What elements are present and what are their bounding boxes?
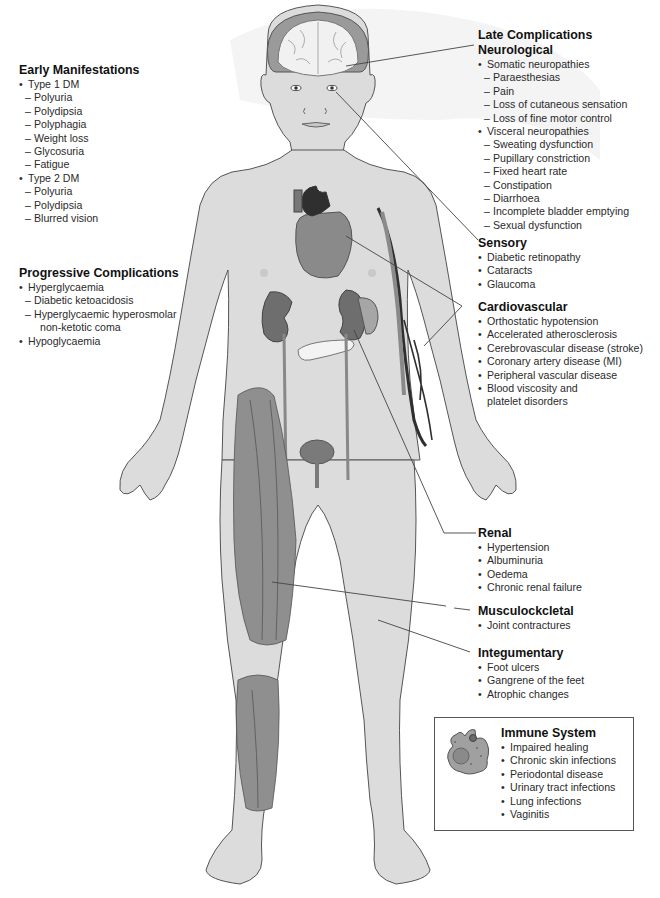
list-item: Diarrhoea: [478, 192, 660, 205]
list-item: Glycosuria: [19, 145, 219, 158]
renal-title: Renal: [478, 526, 660, 541]
list-item: Albuminuria: [478, 554, 660, 567]
musculoskeletal-title: Musculockcletal: [478, 604, 660, 619]
list-item: Hyperglycaemia: [19, 281, 229, 294]
list-item: Blood viscosity and: [478, 382, 660, 395]
immune-system-box: Immune System Impaired healing Chronic s…: [434, 717, 634, 831]
list-item: Chronic skin infections: [501, 754, 631, 767]
late-complications-title: Late Complications: [478, 28, 660, 43]
list-item: Sweating dysfunction: [478, 138, 660, 151]
early-manifestations-panel: Early Manifestations Type 1 DM Polyuria …: [19, 63, 219, 225]
list-item: Orthostatic hypotension: [478, 315, 660, 328]
list-item: Loss of cutaneous sensation: [478, 98, 660, 111]
early-manifestations-title: Early Manifestations: [19, 63, 219, 78]
list-item: Hypoglycaemia: [19, 335, 229, 348]
sensory-panel: Sensory Diabetic retinopathy Cataracts G…: [478, 236, 660, 291]
list-item: Atrophic changes: [478, 688, 660, 701]
list-item: Polydipsia: [19, 105, 219, 118]
list-item: Urinary tract infections: [501, 781, 631, 794]
list-item: Diabetic ketoacidosis: [19, 294, 229, 307]
list-item: Polyphagia: [19, 118, 219, 131]
list-item: non-ketotic coma: [19, 321, 229, 334]
neurological-title: Neurological: [478, 43, 660, 58]
list-item: Polyuria: [19, 185, 219, 198]
list-item: Somatic neuropathies: [478, 58, 660, 71]
list-item: Pain: [478, 85, 660, 98]
list-item: Foot ulcers: [478, 661, 660, 674]
list-item: Coronary artery disease (MI): [478, 355, 660, 368]
progressive-complications-title: Progressive Complications: [19, 266, 229, 281]
list-item: Type 2 DM: [19, 172, 219, 185]
list-item: Loss of fine motor control: [478, 112, 660, 125]
immune-system-panel: Immune System Impaired healing Chronic s…: [501, 726, 631, 821]
list-item: Pupillary constriction: [478, 152, 660, 165]
list-item: Periodontal disease: [501, 768, 631, 781]
list-item: Polyuria: [19, 91, 219, 104]
integumentary-title: Integumentary: [478, 646, 660, 661]
neurological-panel: Late Complications Neurological Somatic …: [478, 28, 660, 232]
list-item: Peripheral vascular disease: [478, 369, 660, 382]
list-item: platelet disorders: [478, 395, 660, 408]
list-item: Paraesthesias: [478, 71, 660, 84]
list-item: Blurred vision: [19, 212, 219, 225]
list-item: Vaginitis: [501, 808, 631, 821]
list-item: Hypertension: [478, 541, 660, 554]
list-item: Cataracts: [478, 264, 660, 277]
list-item: Type 1 DM: [19, 78, 219, 91]
list-item: Fixed heart rate: [478, 165, 660, 178]
list-item: Joint contractures: [478, 619, 660, 632]
progressive-complications-panel: Progressive Complications Hyperglycaemia…: [19, 266, 229, 348]
list-item: Visceral neuropathies: [478, 125, 660, 138]
list-item: Diabetic retinopathy: [478, 251, 660, 264]
list-item: Sexual dysfunction: [478, 219, 660, 232]
list-item: Oedema: [478, 568, 660, 581]
list-item: Gangrene of the feet: [478, 674, 660, 687]
list-item: Hyperglycaemic hyperosmolar: [19, 308, 229, 321]
list-item: Accelerated atherosclerosis: [478, 328, 660, 341]
list-item: Impaired healing: [501, 741, 631, 754]
cardiovascular-panel: Cardiovascular Orthostatic hypotension A…: [478, 300, 660, 409]
list-item: Fatigue: [19, 158, 219, 171]
list-item: Chronic renal failure: [478, 581, 660, 594]
immune-cell-icon: [443, 726, 499, 778]
integumentary-panel: Integumentary Foot ulcers Gangrene of th…: [478, 646, 660, 701]
list-item: Incomplete bladder emptying: [478, 205, 660, 218]
list-item: Constipation: [478, 179, 660, 192]
list-item: Weight loss: [19, 132, 219, 145]
list-item: Cerebrovascular disease (stroke): [478, 342, 660, 355]
list-item: Polydipsia: [19, 199, 219, 212]
sensory-title: Sensory: [478, 236, 660, 251]
renal-panel: Renal Hypertension Albuminuria Oedema Ch…: [478, 526, 660, 595]
list-item: Lung infections: [501, 795, 631, 808]
immune-system-title: Immune System: [501, 726, 631, 741]
musculoskeletal-panel: Musculockcletal Joint contractures: [478, 604, 660, 632]
list-item: Glaucoma: [478, 278, 660, 291]
cardiovascular-title: Cardiovascular: [478, 300, 660, 315]
